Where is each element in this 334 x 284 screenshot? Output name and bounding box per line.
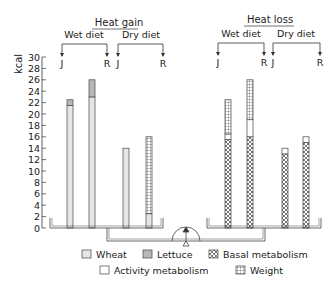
bar-segment-weight bbox=[247, 80, 253, 120]
heat-loss-dry-label: Dry diet bbox=[277, 28, 315, 39]
bar-heat-gain-wet-diet-J bbox=[67, 100, 73, 228]
bar-segment-weight bbox=[146, 137, 152, 214]
label-j: J bbox=[216, 57, 220, 68]
svg-text:Weight: Weight bbox=[250, 265, 283, 276]
bar-segment-wheat bbox=[89, 97, 95, 228]
y-tick-label: 0 bbox=[34, 223, 40, 234]
bar-heat-loss-wet-diet-R bbox=[247, 80, 253, 228]
y-tick-label: 22 bbox=[28, 97, 40, 108]
bar-segment-basal-metabolism bbox=[282, 154, 288, 228]
heat-gain-title: Heat gain bbox=[95, 17, 144, 28]
bar-segment-basal-metabolism bbox=[247, 137, 253, 228]
label-j: J bbox=[116, 58, 120, 69]
activity-swatch bbox=[100, 266, 109, 274]
heat-gain-dry-label: Dry diet bbox=[122, 29, 160, 40]
label-r: R bbox=[261, 57, 268, 68]
y-tick-label: 10 bbox=[28, 166, 40, 177]
legend-item-weight: Weight bbox=[236, 265, 283, 276]
y-tick-label: 16 bbox=[28, 131, 40, 142]
y-tick-label: 14 bbox=[28, 143, 40, 154]
y-tick-label: 2 bbox=[34, 211, 40, 222]
heat-loss-wet-label: Wet diet bbox=[221, 28, 261, 39]
bar-segment-wheat bbox=[123, 148, 129, 228]
bar-heat-gain-dry-diet-R bbox=[146, 137, 152, 228]
legend-item-lettuce: Lettuce bbox=[143, 249, 193, 260]
bar-segment-lettuce bbox=[67, 100, 73, 106]
bars bbox=[67, 80, 309, 228]
y-tick-label: 12 bbox=[28, 154, 40, 165]
bar-heat-loss-dry-diet-J bbox=[282, 148, 288, 228]
heat-gain-wet-label: Wet diet bbox=[64, 29, 104, 40]
svg-text:Wheat: Wheat bbox=[96, 249, 127, 260]
y-axis: 024681012141618202224262830 bbox=[28, 52, 46, 234]
y-tick-label: 28 bbox=[28, 63, 40, 74]
legend-item-basal: Basal metabolism bbox=[209, 249, 308, 260]
heat-loss-title: Heat loss bbox=[247, 14, 293, 25]
y-axis-label: kcal bbox=[13, 54, 24, 74]
svg-text:Basal metabolism: Basal metabolism bbox=[223, 249, 308, 260]
lettuce-swatch bbox=[143, 250, 152, 258]
bar-segment-weight bbox=[225, 100, 231, 134]
basal-swatch bbox=[209, 250, 218, 258]
bar-segment-lettuce bbox=[89, 80, 95, 97]
bar-heat-loss-dry-diet-R bbox=[303, 137, 309, 228]
bar-segment-activity-metabolism bbox=[303, 137, 309, 143]
weight-swatch bbox=[236, 266, 245, 274]
y-tick-label: 24 bbox=[28, 86, 40, 97]
y-tick-label: 30 bbox=[28, 52, 40, 63]
bar-segment-activity-metabolism bbox=[247, 120, 253, 137]
y-tick-label: 6 bbox=[34, 188, 40, 199]
y-tick-label: 18 bbox=[28, 120, 40, 131]
label-j: J bbox=[271, 57, 275, 68]
bar-heat-gain-wet-diet-R bbox=[89, 80, 95, 228]
legend: Wheat Lettuce Basal metabolism Activity … bbox=[82, 249, 308, 276]
bar-segment-basal-metabolism bbox=[303, 143, 309, 229]
bar-segment-wheat bbox=[67, 105, 73, 228]
y-tick-label: 4 bbox=[34, 200, 40, 211]
bar-heat-gain-dry-diet-J bbox=[123, 148, 129, 228]
label-r: R bbox=[160, 58, 167, 69]
svg-text:Lettuce: Lettuce bbox=[157, 249, 193, 260]
diet-brackets bbox=[60, 43, 322, 57]
label-r: R bbox=[317, 57, 324, 68]
legend-item-activity: Activity metabolism bbox=[100, 265, 209, 276]
bar-segment-basal-metabolism bbox=[225, 140, 231, 228]
label-j: J bbox=[60, 58, 64, 69]
label-r: R bbox=[104, 58, 111, 69]
svg-text:Activity metabolism: Activity metabolism bbox=[114, 265, 209, 276]
balance-chart: Heat gain Wet diet Dry diet Heat loss We… bbox=[0, 0, 334, 284]
bar-segment-activity-metabolism bbox=[282, 148, 288, 154]
wheat-swatch bbox=[82, 250, 91, 258]
y-tick-label: 8 bbox=[34, 177, 40, 188]
y-tick-label: 20 bbox=[28, 109, 40, 120]
bar-heat-loss-wet-diet-J bbox=[225, 100, 231, 228]
legend-item-wheat: Wheat bbox=[82, 249, 127, 260]
bar-segment-activity-metabolism bbox=[225, 134, 231, 140]
y-tick-label: 26 bbox=[28, 74, 40, 85]
